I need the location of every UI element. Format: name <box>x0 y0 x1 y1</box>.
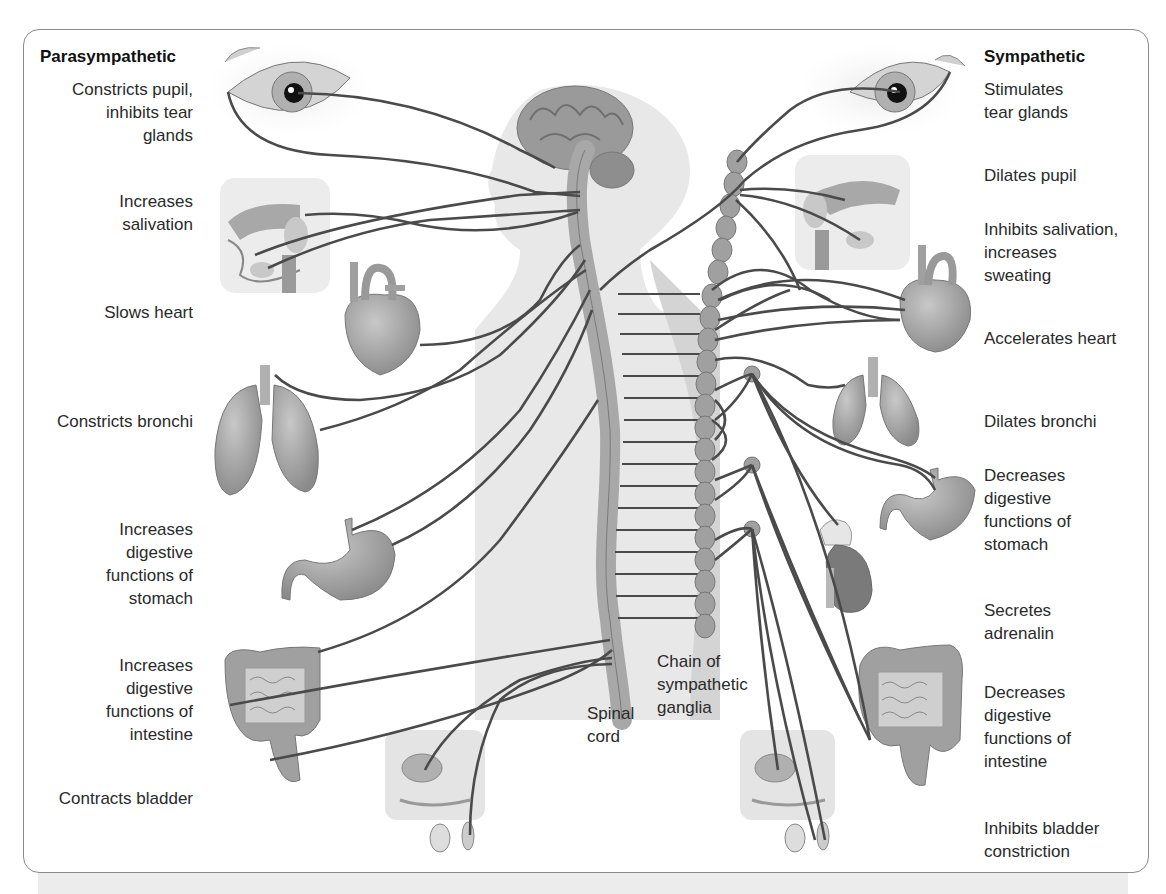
symp-label-bronchi: Dilates bronchi <box>984 410 1144 433</box>
lungs-icon <box>215 365 318 495</box>
sympathetic-heading: Sympathetic <box>984 45 1085 68</box>
intestine-icon <box>225 647 320 782</box>
intestine-icon-right <box>859 645 963 786</box>
para-label-intestine: Increases digestive functions of intesti… <box>23 654 193 746</box>
para-label-salivation: Increases salivation <box>23 190 193 236</box>
para-label-bladder: Contracts bladder <box>23 787 193 810</box>
para-label-eye: Constricts pupil, inhibits tear glands <box>23 78 193 147</box>
lungs-icon-right <box>833 357 919 446</box>
stomach-icon <box>282 518 395 600</box>
para-label-stomach: Increases digestive functions of stomach <box>23 518 193 610</box>
collateral-ganglia <box>744 366 760 537</box>
eye-icon <box>210 45 370 135</box>
symp-label-heart: Accelerates heart <box>984 327 1144 350</box>
parasympathetic-heading: Parasympathetic <box>40 45 176 68</box>
symp-label-pupil: Dilates pupil <box>984 164 1144 187</box>
symp-label-tear-glands: Stimulates tear glands <box>984 78 1144 124</box>
spinal-cord-label: Spinal cord <box>587 702 634 748</box>
symp-label-bladder: Inhibits bladder constriction <box>984 817 1144 863</box>
bladder-icon-right <box>740 730 835 852</box>
symp-label-salivation: Inhibits salivation, increases sweating <box>984 218 1144 287</box>
para-label-heart: Slows heart <box>23 301 193 324</box>
heart-icon <box>345 262 420 375</box>
heart-icon-right <box>900 245 971 352</box>
symp-label-adrenalin: Secretes adrenalin <box>984 599 1144 645</box>
symp-label-intestine: Decreases digestive functions of intesti… <box>984 681 1144 773</box>
para-label-bronchi: Constricts bronchi <box>23 410 193 433</box>
ganglia-chain-label: Chain of sympathetic ganglia <box>657 650 748 719</box>
symp-label-stomach: Decreases digestive functions of stomach <box>984 464 1144 556</box>
